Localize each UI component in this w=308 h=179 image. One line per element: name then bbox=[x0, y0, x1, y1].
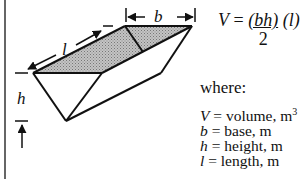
height-label: h bbox=[17, 89, 26, 108]
definition-text: length, m bbox=[221, 152, 280, 169]
formula-factor: (l) bbox=[283, 10, 300, 30]
height-dimension bbox=[15, 121, 28, 148]
formula-lhs: V bbox=[218, 10, 229, 30]
definition-sup: 3 bbox=[292, 106, 297, 117]
formula-denominator: 2 bbox=[248, 30, 278, 48]
definition-volume: V = volume, m3 bbox=[200, 104, 297, 123]
definition-eq: = bbox=[208, 152, 217, 169]
definition-base: b = base, m bbox=[200, 123, 297, 138]
where-label: where: bbox=[200, 78, 246, 98]
base-label: b bbox=[154, 7, 163, 26]
length-label: l bbox=[62, 40, 67, 59]
formula-numerator: (bh) bbox=[248, 10, 278, 30]
edge-front-left bbox=[33, 73, 66, 121]
volume-formula: V = (bh) 2 (l) bbox=[218, 10, 300, 48]
definition-symbol: l bbox=[200, 152, 204, 169]
definitions-list: V = volume, m3 b = base, m h = height, m… bbox=[200, 104, 297, 168]
formula-fraction: (bh) 2 bbox=[248, 10, 278, 48]
formula-equals: = bbox=[234, 10, 244, 30]
edge-bottom bbox=[66, 73, 161, 121]
edge-front-right bbox=[66, 73, 102, 121]
definition-length: l = length, m bbox=[200, 153, 297, 168]
definition-height: h = height, m bbox=[200, 138, 297, 153]
